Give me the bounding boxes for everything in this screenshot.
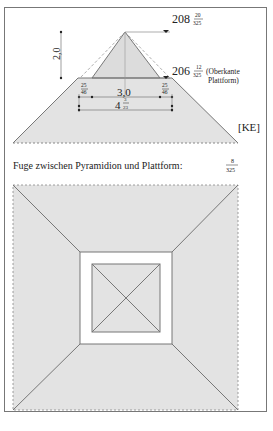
platform-width-whole: 4 (115, 99, 121, 111)
platform-level-whole: 206 (172, 64, 190, 78)
pyramid-diagram: 208 20 325 206 12 325 (Oberkante Plattfo… (0, 0, 273, 431)
platform-note-line1: (Oberkante (206, 67, 240, 76)
plan-view (13, 185, 238, 410)
apex-level-den: 325 (193, 20, 202, 26)
ke-label: [KE] (238, 121, 260, 133)
left-offset-num: 25 (81, 82, 87, 88)
joint-note-den: 325 (226, 167, 235, 173)
right-offset-num: 25 (162, 82, 168, 88)
apex-level-whole: 208 (172, 12, 190, 26)
left-offset-den: 46 (81, 89, 87, 95)
apex-level-num: 20 (195, 12, 201, 18)
right-offset-den: 46 (162, 89, 168, 95)
joint-note-num: 8 (231, 158, 234, 164)
height-dimension-label: 2,0 (51, 48, 62, 61)
joint-note: Fuge zwischen Pyramidion und Plattform: … (13, 158, 238, 173)
platform-level-den: 325 (193, 72, 202, 78)
level-marker-apex-icon (163, 30, 169, 33)
platform-note-line2: Plattform) (208, 76, 239, 85)
platform-width-den: 23 (123, 105, 129, 110)
joint-note-text: Fuge zwischen Pyramidion und Plattform: (13, 160, 182, 171)
platform-level-num: 12 (196, 64, 202, 70)
